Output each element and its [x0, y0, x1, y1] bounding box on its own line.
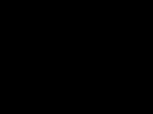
crossed-leg-table-diagram: [0, 0, 153, 114]
figure-background: [0, 0, 153, 114]
figure-container: [0, 0, 153, 114]
